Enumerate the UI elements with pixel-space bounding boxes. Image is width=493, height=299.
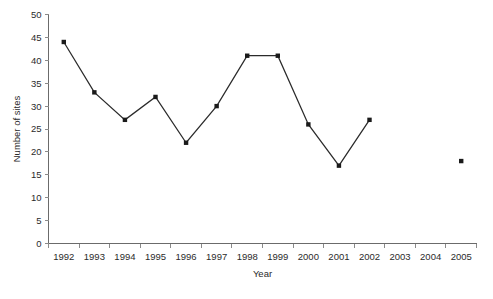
y-axis-title: Number of sites bbox=[11, 95, 22, 162]
data-point-marker bbox=[62, 40, 66, 44]
data-point-marker bbox=[367, 118, 371, 122]
y-axis-tick-label: 10 bbox=[31, 192, 42, 203]
y-axis-tick-label: 30 bbox=[31, 101, 42, 112]
x-axis-tick-label: 1998 bbox=[237, 251, 258, 262]
x-axis-tick-label: 1993 bbox=[84, 251, 105, 262]
y-axis-tick-label: 20 bbox=[31, 146, 42, 157]
data-point-marker bbox=[459, 159, 463, 163]
y-axis-tick-label: 25 bbox=[31, 123, 42, 134]
chart-container: 0510152025303540455019921993199419951996… bbox=[0, 0, 493, 299]
x-axis-tick-label: 2000 bbox=[298, 251, 319, 262]
y-axis-tick-label: 15 bbox=[31, 169, 42, 180]
y-axis-tick-label: 5 bbox=[36, 215, 41, 226]
y-axis-tick-label: 35 bbox=[31, 78, 42, 89]
series-line bbox=[64, 42, 370, 166]
x-axis-tick-label: 2003 bbox=[390, 251, 411, 262]
x-axis-tick-label: 1997 bbox=[206, 251, 227, 262]
x-axis-tick-label: 1995 bbox=[145, 251, 166, 262]
x-axis-tick-label: 2004 bbox=[420, 251, 441, 262]
y-axis-tick-label: 0 bbox=[36, 238, 41, 249]
x-axis-tick-label: 1992 bbox=[53, 251, 74, 262]
x-axis-tick-label: 1999 bbox=[267, 251, 288, 262]
x-axis-tick-label: 2005 bbox=[451, 251, 472, 262]
data-point-marker bbox=[276, 54, 280, 58]
x-axis-tick-label: 1996 bbox=[176, 251, 197, 262]
x-axis-title: Year bbox=[253, 268, 272, 279]
data-point-marker bbox=[337, 163, 341, 167]
x-axis-tick-label: 2001 bbox=[328, 251, 349, 262]
x-axis-tick-label: 1994 bbox=[114, 251, 135, 262]
data-point-marker bbox=[306, 122, 310, 126]
data-point-marker bbox=[214, 104, 218, 108]
data-point-marker bbox=[245, 54, 249, 58]
data-point-marker bbox=[92, 90, 96, 94]
data-point-marker bbox=[184, 141, 188, 145]
y-axis-tick-label: 50 bbox=[31, 9, 42, 20]
y-axis-tick-label: 40 bbox=[31, 55, 42, 66]
data-point-marker bbox=[123, 118, 127, 122]
y-axis-tick-label: 45 bbox=[31, 32, 42, 43]
x-axis-tick-label: 2002 bbox=[359, 251, 380, 262]
line-chart: 0510152025303540455019921993199419951996… bbox=[0, 0, 493, 299]
data-point-marker bbox=[153, 95, 157, 99]
